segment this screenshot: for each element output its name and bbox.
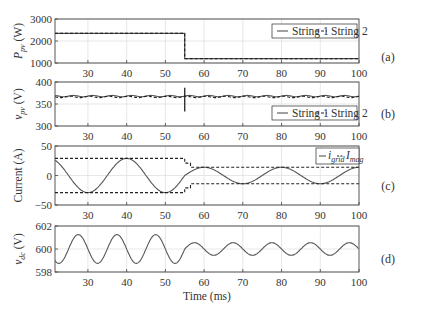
x-tick-label: 70 <box>237 67 249 79</box>
x-tick-label: 30 <box>82 67 94 79</box>
legend-label-string-2: String 2 <box>331 107 368 120</box>
y-tick-label: 300 <box>36 120 53 132</box>
figure: 30405060708090100100020003000Ppv (W)(a)S… <box>0 0 432 313</box>
y-tick-label: 602 <box>36 220 53 232</box>
x-tick-label: 60 <box>199 209 211 221</box>
panel-a: 30405060708090100100020003000Ppv (W)(a)S… <box>12 13 395 79</box>
series-string-1 <box>55 95 359 96</box>
y-axis-label: vpv (V) <box>12 88 27 120</box>
legend: String 1String 2 <box>272 24 368 38</box>
x-tick-label: 30 <box>82 130 94 142</box>
panel-c: 30405060708090100−50050Current (A)(c)igr… <box>12 140 395 221</box>
y-tick-label: 350 <box>36 98 53 110</box>
x-tick-label: 100 <box>351 67 368 79</box>
y-axis-label: vdc (V) <box>12 233 27 265</box>
x-tick-label: 30 <box>82 276 94 288</box>
x-tick-label: 40 <box>121 130 133 142</box>
panel-label: (a) <box>381 50 394 64</box>
panel-d: 30405060708090100598600602vdc (V)(d)Time… <box>12 220 395 303</box>
x-tick-label: 50 <box>160 130 172 142</box>
y-axis-label: Current (A) <box>12 148 25 202</box>
y-axis-label: Ppv (W) <box>12 23 27 60</box>
x-tick-label: 60 <box>199 67 211 79</box>
x-tick-label: 100 <box>351 130 368 142</box>
x-tick-label: 100 <box>351 276 368 288</box>
x-tick-label: 60 <box>199 276 211 288</box>
x-tick-label: 70 <box>237 209 249 221</box>
legend: igridImag <box>316 148 364 164</box>
legend-label-string-2: String 2 <box>331 25 368 38</box>
x-tick-label: 100 <box>351 209 368 221</box>
x-tick-label: 40 <box>121 67 133 79</box>
panel-label: (c) <box>381 179 394 193</box>
x-tick-label: 80 <box>276 209 288 221</box>
x-tick-label: 90 <box>315 130 327 142</box>
y-tick-label: 0 <box>47 170 53 182</box>
x-tick-label: 80 <box>276 130 288 142</box>
series-i-mag-upper <box>55 158 359 167</box>
panel-label: (b) <box>381 107 395 121</box>
legend: String 1String 2 <box>272 106 368 120</box>
y-tick-label: 598 <box>36 266 53 278</box>
x-tick-label: 90 <box>315 276 327 288</box>
panel-b: 30405060708090100300350400vpv (V)(b)Stri… <box>12 76 395 142</box>
y-tick-label: 400 <box>36 76 53 88</box>
y-tick-label: 600 <box>36 243 53 255</box>
panels-group: 30405060708090100100020003000Ppv (W)(a)S… <box>12 13 395 303</box>
x-tick-label: 80 <box>276 67 288 79</box>
x-tick-label: 50 <box>160 276 172 288</box>
x-axis-label: Time (ms) <box>183 290 231 303</box>
y-tick-label: 3000 <box>30 13 53 25</box>
x-tick-label: 50 <box>160 209 172 221</box>
x-tick-label: 40 <box>121 276 133 288</box>
x-tick-label: 40 <box>121 209 133 221</box>
x-tick-label: 60 <box>199 130 211 142</box>
x-tick-label: 90 <box>315 67 327 79</box>
y-tick-label: 1000 <box>30 57 53 69</box>
x-tick-label: 30 <box>82 209 94 221</box>
y-tick-label: 50 <box>41 140 53 152</box>
y-tick-label: −50 <box>35 199 53 211</box>
panel-label: (d) <box>381 252 395 266</box>
y-tick-label: 2000 <box>30 35 53 47</box>
x-tick-label: 50 <box>160 67 172 79</box>
x-tick-label: 70 <box>237 130 249 142</box>
x-tick-label: 90 <box>315 209 327 221</box>
x-tick-label: 70 <box>237 276 249 288</box>
x-tick-label: 80 <box>276 276 288 288</box>
